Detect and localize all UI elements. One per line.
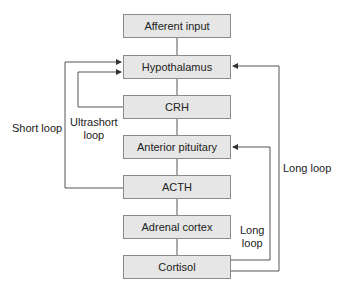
box-afferent-input: Afferent input [123,14,231,38]
ultrashort-loop-label: Ultrashort loop [70,116,118,142]
long-inner-line1: Long [240,224,264,237]
long-inner-line2: loop [240,237,264,250]
ultrashort-line1: Ultrashort [70,116,118,129]
box-label: Adrenal cortex [142,221,213,233]
long-loop-inner-label: Long loop [240,224,264,250]
ultrashort-line2: loop [70,129,118,142]
box-label: Hypothalamus [142,61,212,73]
box-anterior-pituitary: Anterior pituitary [123,135,231,159]
box-acth: ACTH [123,175,231,199]
box-cortisol: Cortisol [123,255,231,279]
box-hypothalamus: Hypothalamus [123,55,231,79]
short-loop-label: Short loop [12,122,62,135]
long-loop-outer-label: Long loop [283,162,331,175]
box-label: Anterior pituitary [137,141,217,153]
box-crh: CRH [123,95,231,119]
box-label: Cortisol [158,261,195,273]
box-adrenal-cortex: Adrenal cortex [123,215,231,239]
box-label: Afferent input [144,20,209,32]
box-label: CRH [165,101,189,113]
box-label: ACTH [162,181,192,193]
